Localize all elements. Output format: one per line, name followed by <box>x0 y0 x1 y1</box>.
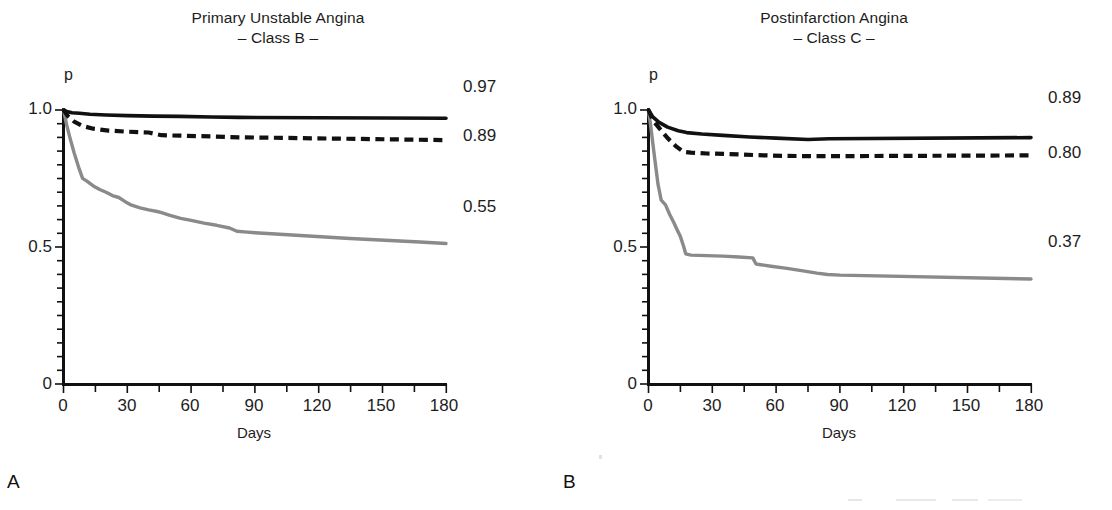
panel-b-letter: B <box>563 471 576 493</box>
panel-a-axes <box>55 108 447 393</box>
scan-artifact-mark <box>988 499 1022 501</box>
panel-a-plot-area <box>0 0 556 510</box>
panel-b-curve-solid <box>649 110 1032 140</box>
scan-artifact-mark <box>848 499 862 501</box>
scan-artifact-mark <box>952 499 978 501</box>
scan-artifact-mark <box>896 499 936 501</box>
scan-artifact-mark <box>599 455 602 459</box>
panel-a-curve-solid <box>64 110 447 118</box>
chart-panel-b: Postinfarction Angina – Class C – p 1.0 … <box>556 0 1112 510</box>
panel-b-plot-area <box>556 0 1112 510</box>
chart-panel-a: Primary Unstable Angina – Class B – p 1.… <box>0 0 556 510</box>
panel-a-letter: A <box>7 471 20 493</box>
panel-b-axes <box>640 108 1032 393</box>
